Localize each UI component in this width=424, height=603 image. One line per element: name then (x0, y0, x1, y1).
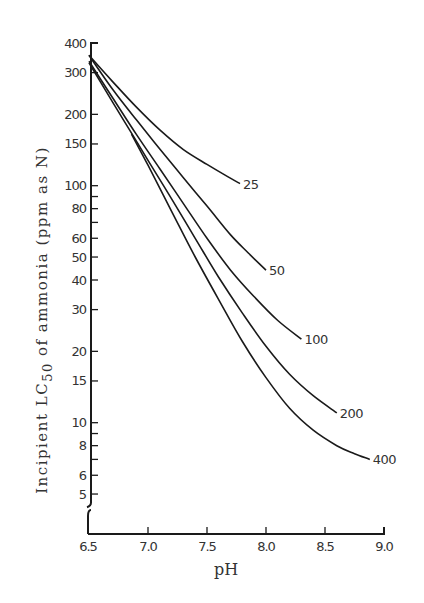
y-tick-label: 100 (64, 178, 87, 193)
y-tick-label: 40 (71, 273, 86, 288)
y-axis-title-post: of ammonia (ppm as N) (33, 146, 51, 362)
y-axis-title: Incipient LC50 of ammonia (ppm as N) (33, 146, 55, 494)
curve-label-100: 100 (304, 332, 328, 347)
curve-25 (89, 55, 240, 183)
curve-100 (89, 61, 301, 339)
curve-200 (89, 63, 337, 413)
y-tick-label: 10 (71, 415, 86, 430)
y-axis-title-pre: Incipient LC (33, 382, 51, 494)
x-tick-label: 8.5 (316, 539, 334, 554)
curve-label-200: 200 (340, 406, 364, 421)
x-tick-label: 7.5 (198, 539, 216, 554)
y-tick-label: 80 (71, 201, 86, 216)
y-tick-label: 5 (79, 487, 87, 502)
y-axis-line (87, 43, 98, 507)
y-tick-label: 20 (71, 344, 86, 359)
y-tick-label: 400 (64, 36, 87, 51)
x-axis-line (88, 527, 384, 534)
y-tick-label: 60 (71, 231, 86, 246)
y-tick-label: 8 (79, 438, 87, 453)
x-tick-label: 8.0 (257, 539, 275, 554)
y-tick-label: 300 (64, 65, 87, 80)
y-tick-label: 6 (79, 468, 87, 483)
y-axis-break-mark (88, 510, 91, 534)
y-axis: 4003002001501008060504030201510865 (64, 36, 98, 535)
x-axis-title: pH (214, 560, 238, 579)
curve-label-25: 25 (243, 177, 259, 192)
x-tick-label: 9.0 (375, 539, 393, 554)
x-tick-label: 7.0 (139, 539, 157, 554)
y-tick-label: 150 (64, 136, 87, 151)
x-tick-label: 6.5 (79, 539, 97, 554)
x-axis: 6.57.07.58.08.59.0 (79, 527, 393, 554)
curve-50 (89, 55, 266, 270)
y-tick-label: 30 (71, 302, 86, 317)
y-tick-label: 50 (71, 250, 86, 265)
ammonia-lc50-chart: 4003002001501008060504030201510865 6.57.… (0, 0, 424, 603)
curves (89, 55, 370, 459)
curve-label-50: 50 (269, 263, 285, 278)
y-axis-title-sub: 50 (40, 362, 55, 382)
y-tick-label: 15 (71, 373, 86, 388)
y-tick-label: 200 (64, 107, 87, 122)
curve-labels: 2550100200400 (243, 177, 396, 468)
curve-label-400: 400 (373, 452, 397, 467)
